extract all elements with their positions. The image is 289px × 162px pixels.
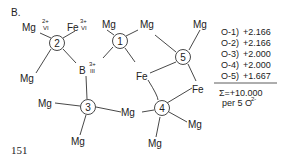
- svg-text:1: 1: [117, 36, 123, 47]
- svg-text:O-5): O-5): [221, 71, 239, 81]
- atom-mg: Mg: [188, 119, 202, 130]
- atom-fe: Fe: [136, 71, 148, 82]
- svg-text:3: 3: [85, 102, 91, 113]
- panel-label: B.: [11, 7, 20, 18]
- atom-mg: Mg: [193, 19, 207, 30]
- atom-mg: Mg: [20, 73, 34, 84]
- svg-text:+2.000: +2.000: [243, 49, 271, 59]
- svg-text:+2.166: +2.166: [243, 38, 271, 48]
- svg-text:3+: 3+: [89, 61, 96, 67]
- bond-sum-table: O-1) +2.166 O-2) +2.166 O-3) +2.000 O-4)…: [214, 27, 277, 108]
- svg-text:VI: VI: [43, 25, 49, 31]
- svg-text:+2.000: +2.000: [243, 60, 271, 70]
- atom-mg: Mg: [22, 22, 36, 33]
- center-5: 5: [176, 50, 191, 65]
- svg-text:III: III: [90, 68, 95, 74]
- atom-mg: Mg: [71, 136, 85, 147]
- center-2: 2: [50, 36, 65, 51]
- per-note: per 5 O: [222, 98, 252, 108]
- atom-fe: Fe: [192, 84, 204, 95]
- svg-text:VI: VI: [81, 25, 87, 31]
- svg-text:O-4): O-4): [221, 60, 239, 70]
- atom-mg: Mg: [148, 138, 162, 149]
- coordination-diagram: B. 2 1: [0, 0, 289, 162]
- svg-text:O-3): O-3): [221, 49, 239, 59]
- atom-mg: Mg: [121, 107, 135, 118]
- svg-text:2: 2: [54, 38, 60, 49]
- svg-text:+2.166: +2.166: [243, 27, 271, 37]
- svg-text:2-: 2-: [251, 96, 256, 102]
- page-number: 151: [11, 144, 28, 156]
- center-3: 3: [81, 100, 96, 115]
- atom-mg: Mg: [102, 19, 116, 30]
- atom-mg: Mg: [38, 98, 52, 109]
- svg-text:4: 4: [159, 103, 165, 114]
- svg-text:O-2): O-2): [221, 38, 239, 48]
- svg-text:3+: 3+: [80, 18, 87, 24]
- svg-text:+1.667: +1.667: [243, 71, 271, 81]
- atom-mg: Mg: [140, 19, 154, 30]
- svg-text:O-1): O-1): [221, 27, 239, 37]
- atom-fe: Fe: [67, 22, 79, 33]
- svg-text:5: 5: [180, 52, 186, 63]
- center-4: 4: [155, 101, 170, 116]
- center-1: 1: [113, 34, 128, 49]
- atom-b: B: [79, 65, 86, 76]
- svg-text:2+: 2+: [42, 18, 49, 24]
